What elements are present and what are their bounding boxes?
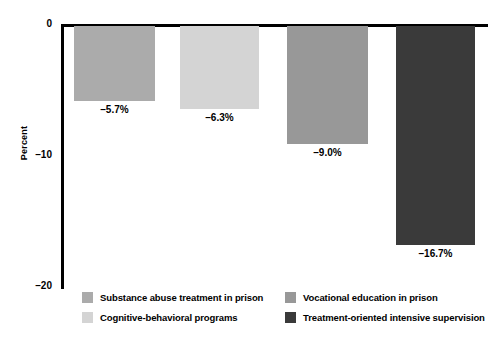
y-tick-label-10: –10 [12, 150, 52, 160]
bar-treatment-oriented-supervision[interactable] [396, 26, 475, 245]
chart-legend: Substance abuse treatment in prison Cogn… [0, 288, 504, 344]
bar-value-label-0: –5.7% [74, 104, 155, 115]
legend-swatch-icon-0 [82, 292, 93, 303]
legend-label-2: Vocational education in prison [303, 292, 438, 303]
legend-swatch-icon-3 [285, 312, 296, 323]
y-tick-label-0: 0 [12, 19, 52, 29]
bar-value-label-1: –6.3% [180, 112, 259, 123]
bar-cognitive-behavioral-programs[interactable] [180, 26, 259, 109]
bar-value-label-3: –16.7% [396, 248, 475, 259]
bar-vocational-education[interactable] [287, 26, 368, 144]
bar-substance-abuse-treatment[interactable] [74, 26, 155, 101]
bar-value-label-2: –9.0% [287, 147, 368, 158]
legend-label-1: Cognitive-behavioral programs [100, 312, 238, 323]
legend-label-3: Treatment-oriented intensive supervision [303, 312, 485, 323]
legend-item-vocational-education[interactable]: Vocational education in prison [285, 292, 438, 303]
legend-item-cognitive-behavioral-programs[interactable]: Cognitive-behavioral programs [82, 312, 238, 323]
chart-page: Percent 0 –10 –20 –5.7% –6.3% –9.0% –16.… [0, 0, 504, 344]
legend-label-0: Substance abuse treatment in prison [100, 292, 263, 303]
plot-area: Percent 0 –10 –20 –5.7% –6.3% –9.0% –16.… [0, 0, 504, 300]
y-axis-title: Percent [19, 113, 29, 173]
y-axis-line [61, 24, 64, 289]
legend-swatch-icon-2 [285, 292, 296, 303]
legend-item-substance-abuse-treatment[interactable]: Substance abuse treatment in prison [82, 292, 263, 303]
legend-item-treatment-oriented-supervision[interactable]: Treatment-oriented intensive supervision [285, 312, 485, 323]
legend-swatch-icon-1 [82, 312, 93, 323]
